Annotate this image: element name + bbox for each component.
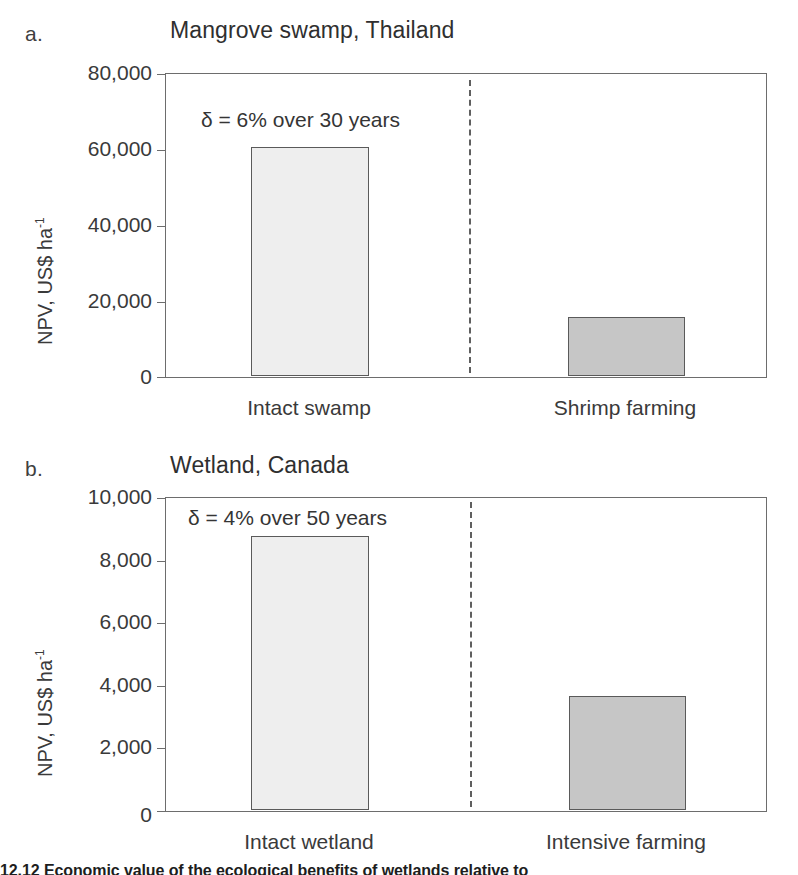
y-tick-label-b-2000: 2,000 — [10, 735, 152, 759]
y-tick-a-60000 — [157, 150, 166, 151]
bar-intact-swamp — [251, 147, 369, 376]
panel-title-a: Mangrove swamp, Thailand — [170, 17, 455, 44]
annotation-discount-rate-b: δ = 4% over 50 years — [188, 506, 387, 530]
panel-title-b: Wetland, Canada — [170, 452, 349, 479]
panel-a-divider — [469, 80, 471, 373]
x-label-b-intact-wetland: Intact wetland — [244, 830, 374, 854]
bar-shrimp-farming — [568, 317, 685, 376]
y-tick-b-2000 — [157, 748, 166, 749]
x-label-a-intact-swamp: Intact swamp — [247, 396, 371, 420]
y-tick-label-b-6000: 6,000 — [10, 610, 152, 634]
annotation-discount-rate-a: δ = 6% over 30 years — [201, 108, 400, 132]
plot-area-a: δ = 6% over 30 years — [165, 73, 767, 378]
bar-intact-wetland — [251, 536, 369, 810]
y-tick-label-b-0: 0 — [10, 803, 152, 827]
panel-letter-a: a. — [25, 22, 43, 46]
y-tick-a-40000 — [157, 226, 166, 227]
y-tick-b-6000 — [157, 623, 166, 624]
chart-panel-b: b. Wetland, Canada NPV, US$ ha-1 δ = 4% … — [0, 437, 798, 875]
panel-letter-b: b. — [25, 457, 43, 481]
y-tick-label-a-60000: 60,000 — [10, 137, 152, 161]
y-tick-label-a-20000: 20,000 — [10, 289, 152, 313]
y-tick-label-b-10000: 10,000 — [10, 485, 152, 509]
panel-b-divider — [470, 502, 472, 807]
y-tick-label-a-80000: 80,000 — [10, 61, 152, 85]
y-tick-a-80000 — [157, 74, 166, 75]
y-tick-label-b-8000: 8,000 — [10, 548, 152, 572]
y-tick-a-20000 — [157, 302, 166, 303]
bar-intensive-farming — [569, 696, 686, 810]
y-tick-label-a-40000: 40,000 — [10, 213, 152, 237]
y-tick-a-0 — [157, 377, 166, 378]
y-tick-b-4000 — [157, 686, 166, 687]
y-tick-b-10000 — [157, 498, 166, 499]
chart-panel-a: a. Mangrove swamp, Thailand NPV, US$ ha-… — [0, 0, 798, 437]
y-tick-b-8000 — [157, 561, 166, 562]
plot-area-b: δ = 4% over 50 years — [165, 497, 767, 812]
x-label-b-intensive-farming: Intensive farming — [546, 830, 706, 854]
figure-caption: 12.12 Economic value of the ecological b… — [0, 861, 798, 875]
y-tick-b-0 — [157, 811, 166, 812]
figure-npv-wetlands: a. Mangrove swamp, Thailand NPV, US$ ha-… — [0, 0, 798, 875]
x-label-a-shrimp-farming: Shrimp farming — [554, 396, 696, 420]
y-axis-label-a-text: NPV, US$ ha — [34, 228, 56, 345]
y-tick-label-a-0: 0 — [10, 365, 152, 389]
y-tick-label-b-4000: 4,000 — [10, 673, 152, 697]
y-axis-label-b-exponent: -1 — [33, 649, 47, 660]
